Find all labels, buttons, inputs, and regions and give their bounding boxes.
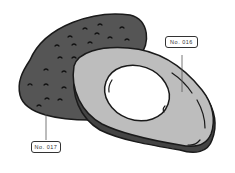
label-no-017: No. 017 bbox=[31, 141, 61, 153]
label-no-016: No. 016 bbox=[165, 36, 198, 48]
avocado-cut-half bbox=[73, 48, 215, 153]
